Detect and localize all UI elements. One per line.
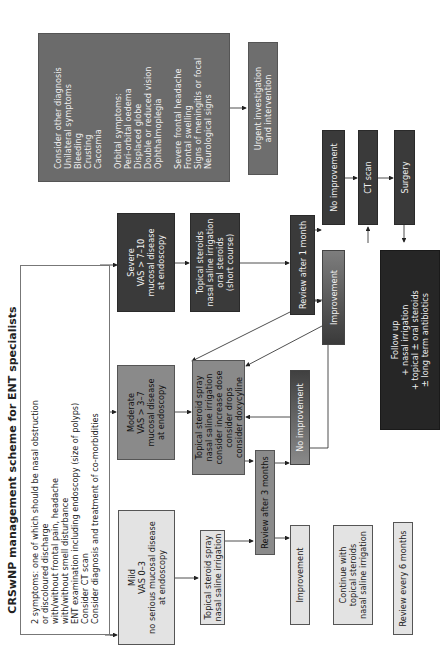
severity-label: Mild	[127, 569, 137, 586]
red-flag-heading: Orbital symptoms:	[113, 93, 123, 169]
severe-no-improvement-box: No improvement	[322, 130, 345, 225]
surgery-box: Surgery	[394, 130, 415, 225]
continue-line: nasal saline irrigation	[358, 531, 368, 619]
ct-scan-label: CT scan	[363, 161, 373, 193]
red-flag-item: Signs of meningitis or focal	[193, 58, 203, 169]
review-label: Review after 3 months	[260, 456, 270, 548]
mild-improvement-box: Improvement	[290, 525, 310, 625]
severity-detail: at endoscopy	[156, 235, 166, 290]
treatment-line: consider drops	[224, 387, 234, 447]
red-flag-item: Double or reduced vision	[143, 67, 153, 169]
severity-detail: mucosal disease	[146, 229, 156, 297]
flowchart-canvas: CRSwNP management scheme for ENT special…	[0, 0, 448, 666]
severity-detail: at endoscopy	[156, 385, 166, 440]
treatment-line: (short course)	[225, 234, 235, 291]
treatment-line: consider increase dose	[214, 370, 224, 464]
red-flag-item: Unilateral symptoms	[63, 84, 73, 169]
ct-scan-box: CT scan	[358, 130, 378, 225]
mild-no-improvement-box: No improvement	[290, 370, 310, 465]
red-flag-item: Displaced globe	[133, 104, 143, 169]
entry-line: ENT examination including endoscopy (siz…	[70, 403, 80, 624]
entry-line: with/without smell disturbance	[60, 498, 70, 624]
vas-range: VAS > 3–7	[136, 391, 146, 433]
review-1-month-box: Review after 1 month	[290, 215, 315, 315]
urgent-line: Urgent investigation	[253, 67, 263, 150]
mild-treatment-box: Topical steroid spray nasal saline irrig…	[200, 530, 225, 625]
treatment-line: Topical steroids	[195, 231, 205, 294]
follow-up-line: + nasal irrigation	[400, 305, 410, 376]
red-flag-item: Peri-orbital oedema	[123, 88, 133, 169]
severity-label: Moderate	[126, 393, 136, 432]
follow-up-box: Follow up + nasal irrigation + topical ±…	[380, 250, 440, 430]
severity-label: Severe	[126, 248, 136, 276]
treatment-line: nasal saline irrigation	[205, 218, 215, 306]
entry-criteria-box: 2 symptoms: one of which should be nasal…	[20, 265, 110, 635]
red-flag-item: Ophthalmoplegia	[153, 98, 163, 169]
treatment-line: consider doxycyline	[234, 377, 244, 458]
red-flag-item: Neurological signs	[203, 94, 213, 169]
review-label: Review after 1 month	[298, 221, 308, 309]
red-flag-item: Frontal swelling	[183, 105, 193, 169]
outcome-label: No improvement	[295, 383, 305, 452]
entry-line: or discoloured discharge	[40, 523, 50, 624]
treatment-line: Topical steroid spray	[194, 376, 204, 460]
severe-severity-box: Severe VAS > 7–10 mucosal disease at end…	[117, 213, 175, 312]
vas-range: VAS 0–3	[137, 561, 147, 594]
red-flags-box: Consider other diagnosis Unilateral symp…	[38, 33, 230, 182]
red-flag-item: Severe frontal headache	[173, 68, 183, 169]
outcome-label: Improvement	[295, 547, 305, 602]
severe-treatment-box: Topical steroids nasal saline irrigation…	[190, 213, 240, 312]
treatment-line: oral steroids	[215, 237, 225, 288]
severity-detail: no serious mucosal disease	[147, 521, 157, 634]
continue-treatment-box: Continue with topical steroids nasal sal…	[333, 525, 373, 625]
urgent-line: and intervention	[263, 75, 273, 143]
follow-up-line: Follow up	[390, 321, 400, 360]
severity-detail: mucosal disease	[146, 379, 156, 447]
page-title: CRSwNP management scheme for ENT special…	[6, 270, 19, 650]
follow-up-line: ± long term antibiotics	[420, 293, 430, 387]
urgent-investigation-box: Urgent investigation and intervention	[248, 42, 278, 175]
treatment-line: nasal saline irrigation	[204, 373, 214, 461]
red-flag-item: Consider other diagnosis	[53, 67, 63, 169]
moderate-severity-box: Moderate VAS > 3–7 mucosal disease at en…	[117, 365, 175, 460]
review-3-months-box: Review after 3 months	[255, 450, 275, 555]
vas-range: VAS > 7–10	[136, 239, 146, 287]
continue-line: topical steroids	[348, 544, 358, 607]
treatment-line: Topical steroid spray	[203, 536, 213, 620]
severity-detail: at endoscopy	[157, 550, 167, 605]
surgery-label: Surgery	[400, 161, 410, 193]
entry-line: with/without frontal pain, headache	[50, 478, 60, 624]
red-flag-item: Crusting	[83, 135, 93, 169]
severe-improvement-box: Improvement	[322, 250, 345, 345]
entry-line: Consider CT scan	[80, 553, 90, 624]
mild-severity-box: Mild VAS 0–3 no serious mucosal disease …	[118, 510, 175, 645]
entry-line: 2 symptoms: one of which should be nasal…	[30, 400, 40, 624]
review-6-months-box: Review every 6 months	[393, 522, 413, 635]
outcome-label: Improvement	[329, 270, 339, 325]
entry-line: Consider diagnosis and treatment of co-m…	[90, 413, 100, 624]
outcome-label: No improvement	[329, 143, 339, 212]
continue-line: Continue with	[338, 547, 348, 604]
review-label: Review every 6 months	[398, 530, 408, 626]
red-flag-item: Bleeding	[73, 133, 83, 169]
red-flag-item: Cacosmia	[93, 129, 103, 169]
follow-up-line: + topical ± oral steroids	[410, 290, 420, 390]
treatment-line: nasal saline irrigation	[213, 533, 223, 621]
moderate-treatment-box: Topical steroid spray nasal saline irrig…	[192, 360, 245, 475]
